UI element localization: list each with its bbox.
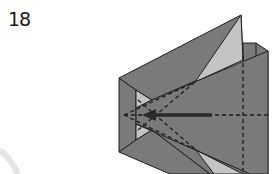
origami-diagram — [0, 0, 276, 174]
decor-arc — [0, 150, 18, 174]
